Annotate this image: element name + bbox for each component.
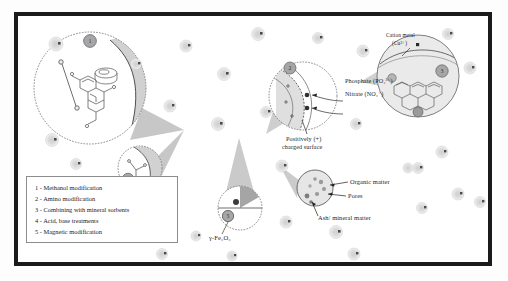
magnifier-cone-magnetic bbox=[226, 138, 254, 192]
label-maghemite: γ-Fe₂O₃ bbox=[209, 234, 231, 241]
callout-magnetic-modification: 5 bbox=[218, 186, 262, 234]
label-nitrate: Nitrate (NO₃⁻) bbox=[345, 91, 383, 98]
legend-item-1: 1 - Methanol modification bbox=[35, 182, 171, 193]
legend-item-2-label: Amino modification bbox=[43, 195, 95, 202]
badge-2: 2 bbox=[284, 62, 296, 74]
label-phosphate: Phosphate (PO₄³⁻) bbox=[345, 78, 393, 85]
label-charged-surface-line2: charged surface bbox=[282, 144, 322, 151]
svg-text:5: 5 bbox=[227, 213, 230, 219]
label-cation-metal-line2: (Cu²⁺) bbox=[392, 40, 407, 46]
figure-frame: 1 4 bbox=[14, 12, 492, 266]
legend-item-3: 3 - Combining with mineral sorbents bbox=[35, 204, 171, 215]
cation-metal-marker bbox=[416, 43, 419, 46]
badge-3: 3 bbox=[436, 65, 448, 77]
legend-item-3-label: Combining with mineral sorbents bbox=[44, 206, 130, 213]
legend-box: 1 - Methanol modification 2 - Amino modi… bbox=[26, 176, 178, 243]
diagram-area: 1 4 bbox=[18, 16, 488, 262]
svg-text:2: 2 bbox=[289, 65, 292, 71]
legend-item-4-label: Acid, base treatments bbox=[43, 217, 98, 224]
legend-item-5: 5 - Magnetic modification bbox=[35, 226, 171, 237]
label-charged-surface-line1: Positively (+) bbox=[286, 136, 321, 143]
legend-item-4: 4 - Acid, base treatments bbox=[35, 215, 171, 226]
badge-5: 5 bbox=[222, 210, 233, 221]
label-organic-matter: Organic matter bbox=[350, 178, 390, 185]
label-cation-metal-line1: Cation metal bbox=[386, 32, 415, 38]
svg-text:3: 3 bbox=[441, 68, 444, 74]
figure-canvas: 1 4 bbox=[0, 0, 508, 281]
legend-item-2: 2 - Amino modification bbox=[35, 193, 171, 204]
callout-mineral-sorbents: 3 bbox=[377, 35, 459, 117]
svg-text:1: 1 bbox=[89, 38, 92, 44]
magnifier-cone-acid-base bbox=[158, 130, 184, 181]
legend-item-1-label: Methanol modification bbox=[44, 184, 103, 191]
label-ash-mineral-matter: Ash/ mineral matter bbox=[318, 214, 371, 221]
label-pores: Pores bbox=[348, 192, 363, 199]
legend-item-5-label: Magnetic modification bbox=[44, 228, 102, 235]
callout-biochar-structure bbox=[297, 170, 348, 216]
badge-1: 1 bbox=[84, 35, 97, 48]
